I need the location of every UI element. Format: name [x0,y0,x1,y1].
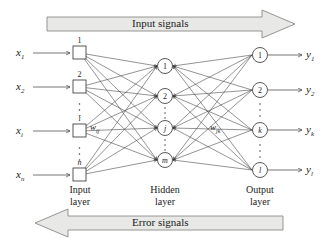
input-signal-x2-sub: 2 [21,87,24,94]
output-signal-y2-sub: 2 [311,90,314,97]
output-signal-yl-sub: l [311,170,313,177]
input-signal-xi: xi [16,124,23,138]
node-in-2-label: 2 [78,70,82,79]
output-layer-caption-line1: Output [230,184,290,196]
output-layer-caption-line2: layer [230,196,290,208]
weight-label-wij: wij [90,122,99,134]
output-signal-y2: y2 [306,83,314,97]
input-layer-caption: Input layer [50,184,110,207]
input-signal-x1: x1 [16,46,24,60]
hidden-layer-caption: Hidden layer [135,184,195,207]
output-signal-y1-sub: 1 [311,55,314,62]
input-signals-label: Input signals [132,17,189,29]
hidden-layer-caption-line2: layer [135,196,195,208]
output-signal-yk-sub: k [311,130,314,137]
connections-input-hidden [80,53,157,175]
input-signal-x1-sub: 1 [21,53,24,60]
node-out-k-label: k [258,126,262,135]
input-signal-xn: xn [16,168,24,182]
input-signal-xn-sub: n [21,175,24,182]
weight-label-wjk: wjk [210,122,220,134]
input-layer-caption-line1: Input [50,184,110,196]
error-signals-label: Error signals [132,216,189,228]
input-signal-arrows [33,53,70,175]
neural-network-figure: 1 2 i n 1 2 j m 1 2 k l [0,0,330,247]
hidden-layer-caption-line1: Hidden [135,184,195,196]
node-in-2[interactable] [73,80,86,93]
weight-wjk-sub: jk [216,128,220,134]
node-hid-1-label: 1 [163,62,167,71]
output-signal-arrows [268,55,302,170]
connections-hidden-output [173,55,252,170]
node-hid-2-label: 2 [163,92,167,101]
output-signal-yl: yl [306,163,313,177]
node-in-1[interactable] [73,46,86,59]
node-in-n[interactable] [73,168,86,181]
output-layer-caption: Output layer [230,184,290,207]
weight-wij-sub: ij [96,128,99,134]
output-signal-yk: yk [306,123,314,137]
input-layer-caption-line2: layer [50,196,110,208]
node-in-i[interactable] [73,124,86,137]
node-in-1-label: 1 [78,36,82,45]
input-signal-x2: x2 [16,80,24,94]
node-out-2-label: 2 [258,86,262,95]
node-hid-m-label: m [162,156,168,165]
input-signal-xi-sub: i [21,131,23,138]
network-diagram-svg: 1 2 i n 1 2 j m 1 2 k l [0,0,330,247]
output-signal-y1: y1 [306,48,314,62]
node-out-1-label: 1 [258,51,262,60]
output-layer-nodes: 1 2 k l [253,48,268,178]
